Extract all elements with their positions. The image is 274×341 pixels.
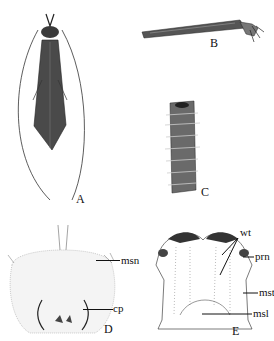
annotation-prn: prn bbox=[255, 251, 270, 262]
larval-case-lateral-illustration bbox=[140, 0, 274, 60]
panel-d: msn cp D bbox=[0, 225, 137, 341]
annotation-cp: cp bbox=[113, 303, 123, 314]
panel-a: A bbox=[0, 0, 137, 205]
panel-b: B bbox=[140, 0, 274, 60]
leader-lines bbox=[140, 225, 274, 341]
panel-label-c: C bbox=[201, 186, 209, 198]
panel-label-e: E bbox=[232, 325, 239, 337]
leader-line-cp bbox=[83, 309, 113, 310]
annotation-wt: wt bbox=[240, 227, 251, 238]
panel-label-d: D bbox=[104, 323, 113, 335]
annotation-msl: msl bbox=[253, 308, 269, 319]
panel-e: wt prn mst msl E bbox=[140, 225, 274, 341]
mesonotum-illustration bbox=[0, 225, 137, 341]
panel-c: C bbox=[160, 95, 240, 200]
panel-label-a: A bbox=[76, 193, 85, 205]
adult-insect-illustration bbox=[0, 0, 137, 205]
annotation-mst: mst bbox=[259, 287, 274, 298]
panel-label-b: B bbox=[210, 37, 218, 49]
leader-line-msn bbox=[96, 260, 120, 261]
stick-case-illustration bbox=[160, 95, 240, 200]
annotation-msn: msn bbox=[121, 255, 139, 266]
